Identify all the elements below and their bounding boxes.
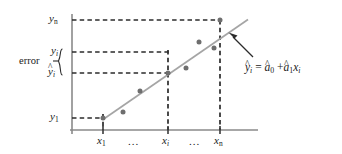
formula-a1-hat: ^ — [284, 59, 289, 69]
scatter-point — [101, 116, 106, 121]
scatter-point — [121, 110, 126, 115]
y-1-subscript: 1 — [55, 115, 59, 124]
formula-lhs-subscript: i — [250, 66, 252, 75]
formula-a0-hat: ^ — [265, 59, 270, 69]
x-n-subscript: n — [219, 139, 223, 148]
error-brace — [59, 49, 63, 75]
x-axis-label-x-1: x1 — [97, 135, 106, 146]
formula-arrow-shaft — [233, 37, 253, 57]
scatter-points-group — [101, 18, 223, 121]
y-axis-label-y-i: yi — [51, 45, 58, 56]
scatter-point — [197, 40, 202, 45]
y-axis-label-y-n: yn — [49, 13, 58, 24]
drop-lines-group — [103, 20, 220, 130]
leader-lines-group — [72, 20, 220, 118]
scatter-point — [212, 46, 217, 51]
regression-formula: ^yi = ^a0 +^a1xi — [245, 62, 301, 74]
y-hat-i-subscript: i — [53, 70, 55, 79]
y-axis-label-y-hat-i: ^yi — [48, 66, 55, 77]
x-1-subscript: 1 — [102, 139, 106, 148]
scatter-point — [166, 71, 171, 76]
x-axis-ellipsis-right: ... — [189, 136, 200, 147]
y-n-subscript: n — [54, 17, 58, 26]
x-i-subscript: i — [167, 139, 169, 148]
formula-x-subscript: i — [298, 66, 300, 75]
scatter-point — [218, 18, 223, 23]
x-axis-label-x-n: xn — [214, 135, 223, 146]
formula-lhs-hat: ^ — [245, 59, 250, 69]
formula-a0-subscript: 0 — [270, 66, 274, 75]
y-hat-i-hat: ^ — [48, 63, 52, 72]
error-label: error — [19, 56, 39, 67]
scatter-point — [138, 89, 143, 94]
x-axis-ellipsis-left: ... — [128, 136, 139, 147]
regression-diagram: yn yi ^yi y1 x1 ... xi ... xn error ^yi … — [0, 0, 342, 154]
y-i-subscript: i — [56, 49, 58, 58]
scatter-point — [184, 66, 189, 71]
formula-a1-subscript: 1 — [289, 66, 293, 75]
y-axis-label-y-1: y1 — [50, 111, 59, 122]
formula-arrow — [229, 33, 254, 58]
regression-line — [103, 20, 248, 120]
x-axis-label-x-i: xi — [162, 135, 169, 146]
